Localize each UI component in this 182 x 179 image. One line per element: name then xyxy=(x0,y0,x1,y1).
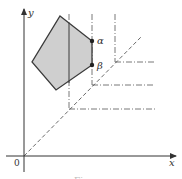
diagram-canvas: α β y x 0 Figure xyxy=(0,0,182,179)
figure-caption: Figure xyxy=(74,176,104,179)
corner-line-2 xyxy=(92,14,155,85)
origin-label: 0 xyxy=(14,158,20,168)
shaded-polygon xyxy=(32,16,92,90)
point-beta-label: β xyxy=(96,60,103,71)
y-axis-label: y xyxy=(27,7,34,18)
corner-line-3 xyxy=(115,14,155,62)
point-alpha xyxy=(90,39,94,43)
point-beta xyxy=(90,63,94,67)
x-axis-label: x xyxy=(169,157,175,168)
point-alpha-label: α xyxy=(97,35,104,46)
